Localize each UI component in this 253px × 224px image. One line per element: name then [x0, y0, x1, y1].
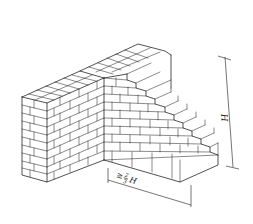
brick-wall-drawing: H ≥ 2 3 H	[0, 0, 253, 224]
left-wall	[22, 71, 104, 182]
diagram-canvas: H ≥ 2 3 H	[0, 0, 253, 224]
length-label-fraction-den: 3	[122, 178, 128, 185]
length-label-var: H	[128, 175, 139, 186]
length-dimension: ≥ 2 3 H	[108, 168, 191, 207]
height-dimension: H	[218, 56, 239, 169]
height-label: H	[219, 112, 230, 122]
